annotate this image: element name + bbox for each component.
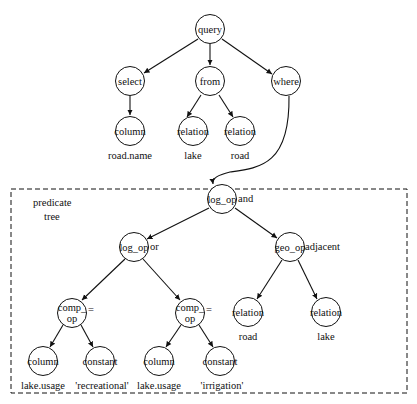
node-label: geo_op bbox=[275, 242, 306, 253]
value-lake-usage-1: lake.usage bbox=[21, 380, 65, 391]
value-road: road bbox=[231, 150, 250, 161]
parse-tree-diagram: predicate tree query select from where c… bbox=[0, 0, 417, 404]
node-column: column bbox=[115, 116, 145, 146]
node-label: log_op bbox=[119, 242, 148, 253]
value-lake-2: lake bbox=[317, 331, 335, 342]
node-label-top: comp_ bbox=[176, 302, 205, 313]
node-relation-lake: relation bbox=[178, 116, 208, 146]
node-label-bottom: op bbox=[185, 313, 196, 324]
node-label-top: comp_ bbox=[58, 302, 87, 313]
node-label: column bbox=[114, 126, 146, 137]
node-label: column bbox=[143, 356, 175, 367]
node-relation-road-2: relation bbox=[233, 297, 263, 327]
node-label: relation bbox=[177, 126, 209, 137]
node-label: where bbox=[273, 76, 299, 87]
node-log-op-and: log_op bbox=[207, 184, 237, 214]
node-label: log_op bbox=[207, 194, 236, 205]
node-relation-lake-2: relation bbox=[311, 297, 341, 327]
node-geo-op: geo_op bbox=[275, 232, 305, 262]
node-where: where bbox=[271, 66, 301, 96]
value-road-2: road bbox=[239, 331, 258, 342]
tree-text: tree bbox=[33, 210, 71, 224]
annotation-equals-1: = bbox=[88, 304, 94, 315]
node-label: constant bbox=[203, 356, 238, 367]
node-constant-2: constant bbox=[205, 346, 235, 376]
annotation-and: and bbox=[238, 193, 253, 204]
node-label: relation bbox=[310, 307, 342, 318]
node-label: column bbox=[27, 356, 59, 367]
node-column-2: column bbox=[28, 346, 58, 376]
node-comp-op-2: comp_op bbox=[175, 298, 205, 328]
predicate-tree-label: predicate tree bbox=[33, 196, 71, 224]
node-query: query bbox=[195, 14, 225, 44]
value-lake-usage-2: lake.usage bbox=[137, 380, 181, 391]
node-constant-1: constant bbox=[85, 346, 115, 376]
node-comp-op-1: comp_op bbox=[57, 298, 87, 328]
node-label: from bbox=[200, 76, 220, 87]
node-label: relation bbox=[224, 126, 256, 137]
node-label: query bbox=[198, 24, 222, 35]
value-lake: lake bbox=[184, 150, 202, 161]
annotation-equals-2: = bbox=[206, 304, 212, 315]
node-label: select bbox=[118, 76, 142, 87]
node-from: from bbox=[195, 66, 225, 96]
value-irrigation: 'irrigation' bbox=[201, 380, 244, 391]
node-select: select bbox=[115, 66, 145, 96]
node-log-op-or: log_op bbox=[119, 232, 149, 262]
value-recreational: 'recreational' bbox=[75, 380, 128, 391]
node-label: relation bbox=[232, 307, 264, 318]
predicate-text: predicate bbox=[33, 196, 71, 210]
node-relation-road: relation bbox=[225, 116, 255, 146]
node-label-bottom: op bbox=[67, 313, 78, 324]
annotation-or: or bbox=[150, 241, 159, 252]
annotation-adjacent: adjacent bbox=[305, 241, 340, 252]
node-column-3: column bbox=[144, 346, 174, 376]
node-label: constant bbox=[83, 356, 118, 367]
value-road-name: road.name bbox=[108, 150, 152, 161]
